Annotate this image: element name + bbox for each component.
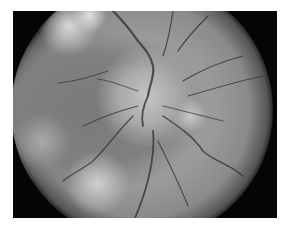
fundus-photo-frame xyxy=(13,11,277,218)
blood-vessels xyxy=(13,11,277,218)
